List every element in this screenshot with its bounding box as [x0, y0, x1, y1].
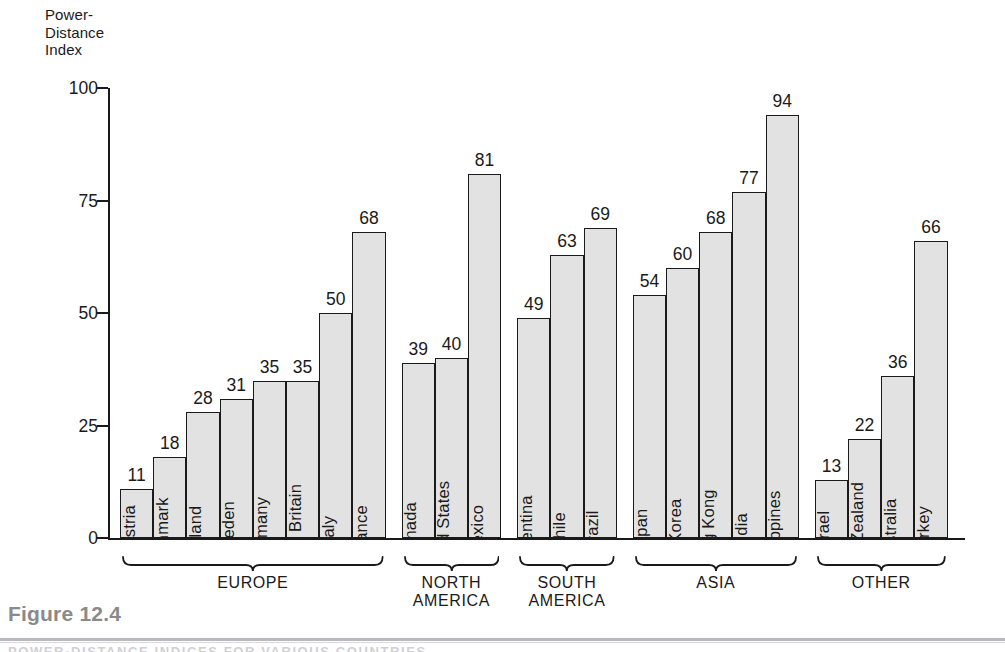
bar-value-label: 35 — [293, 359, 312, 377]
bar: Sweden — [220, 399, 253, 539]
bar-value-label: 60 — [673, 246, 692, 264]
y-tick-mark — [97, 425, 108, 427]
caption-divider-thin — [0, 642, 1005, 643]
bar-value-label: 11 — [128, 467, 146, 485]
group-brace — [404, 556, 500, 572]
bar: United States — [435, 358, 468, 538]
bar-category-label: France — [352, 505, 369, 538]
bar: Italy — [319, 313, 352, 538]
bar-value-label: 94 — [772, 93, 791, 111]
group-label: EUROPE — [163, 574, 343, 592]
bar: India — [732, 192, 765, 539]
plot-area: 0255075100 Austria11Denmark18Ireland28Sw… — [108, 88, 965, 538]
bar: Chile — [550, 255, 583, 539]
bar-value-label: 28 — [193, 390, 212, 408]
bar-category-label: Canada — [402, 502, 419, 539]
y-tick-label: 0 — [50, 531, 98, 545]
y-tick-mark — [97, 537, 108, 539]
bar-value-label: 63 — [557, 233, 576, 251]
y-axis-title-line-3: Index — [45, 41, 165, 59]
group-label: OTHER — [791, 574, 971, 592]
bar-category-label: Ireland — [186, 505, 203, 538]
bar: Israel — [815, 480, 848, 539]
bar-value-label: 81 — [475, 152, 494, 170]
y-tick-label: 50 — [50, 306, 98, 320]
bar-value-label: 69 — [590, 206, 609, 224]
bar: France — [352, 232, 385, 538]
bar-value-label: 22 — [855, 417, 874, 435]
bar-value-label: 54 — [640, 273, 659, 291]
y-tick-mark — [97, 87, 108, 89]
bar: Denmark — [153, 457, 186, 538]
bar-value-label: 39 — [408, 341, 427, 359]
bar: Japan — [633, 295, 666, 538]
bar: Canada — [402, 363, 435, 539]
bar: Argentina — [517, 318, 550, 539]
bar: Germany — [253, 381, 286, 539]
bar: Philippines — [766, 115, 799, 538]
bar-category-label: Italy — [319, 515, 336, 538]
y-tick-mark — [97, 312, 108, 314]
y-axis-title-line-2: Distance — [45, 24, 165, 42]
bar-value-label: 18 — [160, 435, 179, 453]
figure-caption: Figure 12.4 — [8, 602, 121, 626]
bar-value-label: 35 — [260, 359, 279, 377]
y-tick-mark — [97, 200, 108, 202]
y-axis-title: Power- Distance Index — [45, 6, 165, 59]
bar-category-label: United States — [435, 480, 452, 538]
bar-category-label: Philippines — [766, 490, 783, 538]
y-axis-title-line-1: Power- — [45, 6, 165, 24]
bar: Mexico — [468, 174, 501, 539]
bar: S. Korea — [666, 268, 699, 538]
bar: Turkey — [914, 241, 947, 538]
bar-category-label: Brazil — [584, 510, 601, 538]
group-label: ASIA — [626, 574, 806, 592]
bar: Hong Kong — [699, 232, 732, 538]
bar-category-label: Austria — [120, 505, 137, 538]
bar-category-label: Argentina — [517, 495, 534, 538]
bar: Great Britain — [286, 381, 319, 539]
bar-value-label: 36 — [888, 354, 907, 372]
bar-value-label: 68 — [706, 210, 725, 228]
bar-category-label: Hong Kong — [699, 489, 716, 538]
bar-category-label: Japan — [633, 508, 650, 538]
caption-subtext: POWER-DISTANCE INDICES FOR VARIOUS COUNT… — [8, 644, 1005, 652]
group-brace — [635, 556, 797, 572]
x-axis-line — [108, 538, 965, 540]
bar-category-label: Turkey — [914, 505, 931, 538]
bar-category-label: Mexico — [468, 504, 485, 538]
bar-category-label: S. Korea — [666, 498, 683, 538]
bar: Australia — [881, 376, 914, 538]
y-axis-line — [108, 88, 110, 538]
bar: Brazil — [584, 228, 617, 539]
group-brace — [519, 556, 615, 572]
group-brace — [817, 556, 946, 572]
bar-category-label: Sweden — [220, 501, 237, 538]
bar-category-label: Great Britain — [286, 483, 303, 538]
caption-divider — [0, 638, 1005, 641]
bar-value-label: 31 — [226, 377, 245, 395]
bar-category-label: Australia — [881, 498, 898, 538]
bar-value-label: 40 — [442, 336, 461, 354]
bar-value-label: 66 — [921, 219, 940, 237]
y-tick-label: 100 — [50, 81, 98, 95]
y-tick-label: 25 — [50, 419, 98, 433]
bar: Ireland — [186, 412, 219, 538]
bar-value-label: 77 — [739, 170, 758, 188]
bar-category-label: New Zealand — [848, 481, 865, 538]
group-brace — [122, 556, 384, 572]
bar-value-label: 49 — [524, 296, 543, 314]
bar: New Zealand — [848, 439, 881, 538]
bar-value-label: 50 — [326, 291, 345, 309]
bar-category-label: Denmark — [153, 497, 170, 538]
bar-category-label: India — [732, 513, 749, 538]
bar-category-label: Germany — [253, 496, 270, 538]
bar: Austria — [120, 489, 153, 539]
bar-value-label: 13 — [822, 458, 841, 476]
bar-value-label: 68 — [359, 210, 378, 228]
bar-category-label: Chile — [550, 512, 567, 538]
bar-category-label: Israel — [815, 510, 832, 538]
y-tick-label: 75 — [50, 194, 98, 208]
figure-container: Power- Distance Index 0255075100 Austria… — [0, 0, 1005, 652]
